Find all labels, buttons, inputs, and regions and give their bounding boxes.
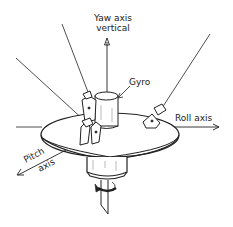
sight-line-3 [162,34,210,108]
gyro-platform-diagram: Yaw axis vertical Gyro Roll axis Pitch a… [0,0,233,227]
gyro-cylinder [95,92,118,129]
sight-line-2 [16,58,86,122]
sensor-mount-left-back [82,91,96,122]
base-cylinder [87,157,127,179]
gyro-label: Gyro [129,77,150,87]
yaw-axis-label: Yaw axis vertical [89,13,137,33]
sight-line-1 [62,24,88,92]
yaw-axis-label-line2: vertical [89,23,137,33]
gyro-leader [118,86,130,98]
yaw-axis-label-line1: Yaw axis [89,13,137,23]
shaft [101,180,108,214]
yaw-axis-arrow [105,38,110,95]
roll-axis-arrow [175,124,219,130]
roll-axis-label: Roll axis [175,113,212,123]
